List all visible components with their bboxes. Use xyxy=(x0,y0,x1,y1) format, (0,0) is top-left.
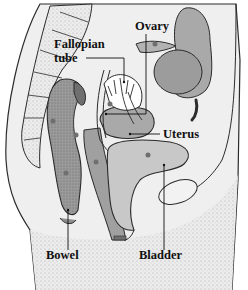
label-fallopian-tube-line2: tube xyxy=(54,52,78,65)
label-bowel: Bowel xyxy=(46,249,79,262)
label-uterus: Uterus xyxy=(163,128,199,141)
label-fallopian-tube-line1: Fallopian xyxy=(54,38,105,51)
label-ovary: Ovary xyxy=(135,20,169,33)
anatomy-illustration xyxy=(0,0,248,290)
label-bladder: Bladder xyxy=(139,249,182,262)
colon-loop xyxy=(154,50,202,94)
anatomy-diagram: Fallopian tube Ovary Uterus Bowel Bladde… xyxy=(0,0,248,290)
